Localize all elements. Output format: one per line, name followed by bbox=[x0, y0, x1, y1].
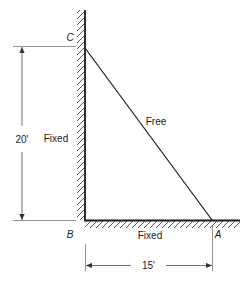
ground-support-label: Fixed bbox=[138, 230, 162, 241]
horizontal-dimension-label: 15' bbox=[142, 260, 155, 271]
free-edge-line bbox=[85, 48, 212, 220]
wall-support-label: Fixed bbox=[44, 133, 68, 144]
engineering-diagram: 20' 15' C B A Fixed Fixed Free bbox=[0, 0, 247, 283]
vertical-dimension-label: 20' bbox=[15, 134, 28, 145]
vertex-label-c: C bbox=[66, 32, 74, 43]
vertex-label-b: B bbox=[67, 229, 74, 240]
free-edge-label: Free bbox=[146, 116, 167, 127]
wall-hatching bbox=[77, 10, 85, 220]
vertex-label-a: A bbox=[214, 229, 222, 240]
